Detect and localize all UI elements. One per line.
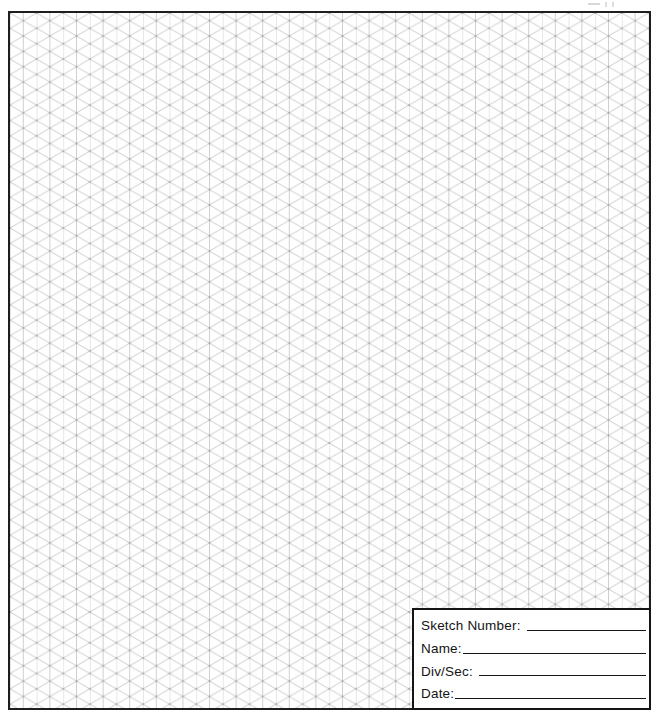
scan-artifact-tick (605, 2, 607, 7)
scan-artifact-tick (612, 2, 614, 7)
field-row-name: Name: (421, 636, 646, 659)
isometric-graph-paper-sheet: Sketch Number: Name: Div/Sec: Date: (0, 0, 661, 722)
title-block: Sketch Number: Name: Div/Sec: Date: (412, 608, 651, 710)
field-label-div-sec: Div/Sec: (421, 664, 473, 682)
field-blank-line-sketch-number[interactable] (527, 630, 646, 631)
field-row-date: Date: (421, 681, 646, 704)
field-label-date: Date: (421, 686, 454, 704)
field-blank-line-date[interactable] (455, 698, 646, 699)
grid-frame (8, 11, 651, 710)
field-blank-line-name[interactable] (463, 653, 646, 654)
field-label-name: Name: (421, 641, 462, 659)
grid-fill (10, 13, 649, 708)
scan-artifact-marks (588, 2, 614, 7)
isometric-grid (10, 13, 649, 708)
field-blank-line-div-sec[interactable] (479, 675, 646, 676)
scan-artifact-dash (588, 3, 600, 5)
field-label-sketch-number: Sketch Number: (421, 618, 521, 636)
field-row-sketch-number: Sketch Number: (421, 613, 646, 636)
field-row-div-sec: Div/Sec: (421, 659, 646, 682)
